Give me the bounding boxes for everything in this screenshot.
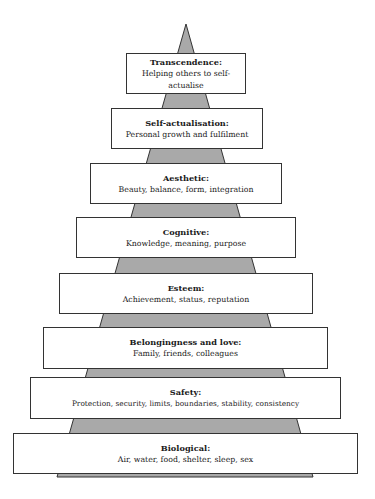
level-description: Beauty, balance, form, integration [119,184,254,196]
level-belongingness-and-love: Belongingness and love: Family, friends,… [43,327,328,369]
level-title: Esteem: [168,282,205,294]
level-title: Biological: [161,442,210,454]
level-description: Knowledge, meaning, purpose [126,238,246,250]
level-aesthetic: Aesthetic: Beauty, balance, form, integr… [90,163,282,204]
level-self-actualisation: Self-actualisation: Personal growth and … [111,108,263,149]
level-title: Safety: [170,386,202,398]
level-cognitive: Cognitive: Knowledge, meaning, purpose [76,217,296,258]
level-description: Family, friends, colleagues [133,348,238,360]
level-description: Protection, security, limits, boundaries… [72,398,299,410]
level-description: Personal growth and fulfilment [126,129,249,141]
level-description: Air, water, food, shelter, sleep, sex [118,454,253,466]
level-biological: Biological: Air, water, food, shelter, s… [13,433,358,474]
level-description: Helping others to self- [142,68,230,80]
level-title: Transcendence: [150,56,222,68]
level-title: Belongingness and love: [130,336,242,348]
level-safety: Safety: Protection, security, limits, bo… [30,377,341,419]
level-title: Cognitive: [163,226,210,238]
level-transcendence: Transcendence: Helping others to self- a… [126,53,246,94]
level-title: Self-actualisation: [145,117,229,129]
level-title: Aesthetic: [163,172,209,184]
level-esteem: Esteem: Achievement, status, reputation [59,273,313,314]
level-description: actualise [168,80,203,92]
level-description: Achievement, status, reputation [123,294,250,306]
